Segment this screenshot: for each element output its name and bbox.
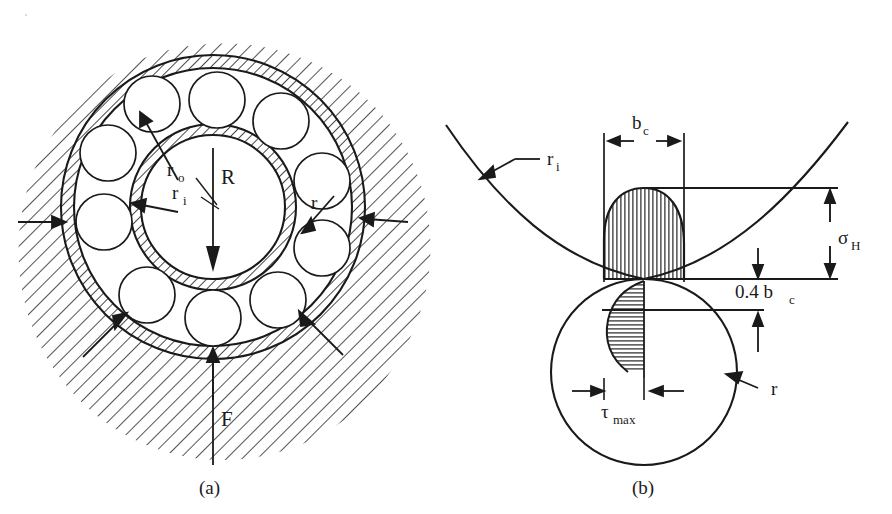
hertz-stress-dimension xyxy=(825,190,835,277)
label-shear-depth-subscript: c xyxy=(789,292,795,307)
label-max-shear-stress: τ xyxy=(601,401,609,422)
figure-root: r o r i R r F (a) xyxy=(0,0,892,514)
label-contact-width: b xyxy=(632,112,642,133)
rolling-element xyxy=(119,267,175,323)
hertz-pressure-distribution xyxy=(600,182,692,286)
rolling-element xyxy=(250,272,306,328)
label-hertz-stress: σ xyxy=(838,227,848,248)
label-raceway-radius-b: r xyxy=(547,148,554,169)
label-ball-radius-a: r xyxy=(311,192,318,213)
caption-panel-b: (b) xyxy=(632,477,654,499)
label-inner-raceway-radius-subscript: i xyxy=(183,193,187,208)
label-contact-width-subscript: c xyxy=(643,123,649,138)
panel-b-labels: b c r i σ H 0.4 b c τ max r (b) xyxy=(547,112,860,499)
label-applied-load: F xyxy=(221,407,233,431)
caption-panel-a: (a) xyxy=(199,477,220,499)
label-outer-raceway-radius-subscript: o xyxy=(178,170,185,185)
figure-svg: r o r i R r F (a) xyxy=(0,0,892,514)
shear-stress-distribution xyxy=(602,280,648,378)
rolling-element xyxy=(124,76,180,132)
rolling-element xyxy=(294,220,350,276)
label-max-shear-stress-subscript: max xyxy=(613,412,636,427)
label-outer-raceway-radius: r xyxy=(167,159,174,180)
rolling-element xyxy=(189,72,245,128)
rolling-element xyxy=(80,125,136,181)
max-shear-dimension xyxy=(572,378,684,400)
ball-radius-callout-b xyxy=(726,372,758,388)
panel-b: b c r i σ H 0.4 b c τ max r (b) xyxy=(446,112,860,499)
label-pitch-radius: R xyxy=(221,165,235,189)
label-inner-raceway-radius: r xyxy=(172,182,179,203)
rolling-element xyxy=(76,194,132,250)
label-hertz-stress-subscript: H xyxy=(851,238,860,253)
panel-a: r o r i R r F (a) xyxy=(0,0,446,514)
label-ball-radius-b: r xyxy=(771,378,778,399)
raceway-radius-callout-b xyxy=(480,159,540,179)
rolling-element xyxy=(294,153,350,209)
rolling-element xyxy=(185,290,241,346)
label-shear-depth: 0.4 b xyxy=(735,281,773,302)
label-raceway-radius-b-subscript: i xyxy=(556,159,560,174)
rolling-element xyxy=(253,93,309,149)
